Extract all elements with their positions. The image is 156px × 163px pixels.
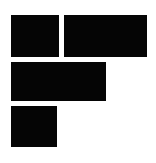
figure-description: Four solid black rectangles arranged in …: [0, 0, 1, 1]
block-bottom-left-label: Bottom left block: [11, 106, 12, 107]
block-middle: Middle wide block: [11, 62, 106, 101]
block-top-right-label: Top right block: [64, 15, 65, 16]
block-bottom-left: Bottom left block: [11, 106, 57, 147]
block-middle-label: Middle wide block: [11, 62, 12, 63]
figure-title: Black Block Composition: [0, 0, 1, 1]
figure-canvas: Top left block Top right block Middle wi…: [0, 0, 156, 163]
block-top-right: Top right block: [64, 15, 147, 57]
block-top-left-label: Top left block: [11, 15, 12, 16]
block-top-left: Top left block: [11, 15, 59, 57]
